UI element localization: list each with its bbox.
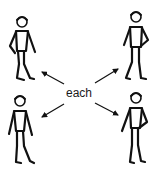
person-figure-top-right (124, 12, 148, 79)
each-symbol-diagram: each (0, 0, 156, 184)
person-figure-bottom-left (9, 96, 34, 163)
arrow-down-right-icon (95, 103, 118, 115)
arrow-up-left-icon (42, 72, 64, 84)
person-figure-bottom-right (122, 93, 147, 163)
person-figure-top-left (10, 17, 35, 80)
arrow-down-left-icon (42, 104, 64, 117)
arrow-up-right-icon (95, 69, 118, 83)
word-label: each (58, 86, 100, 100)
